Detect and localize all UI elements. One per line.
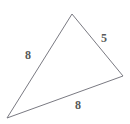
side-label-bottom: 8 bbox=[75, 99, 81, 111]
triangle-outline bbox=[7, 14, 123, 118]
side-label-right: 5 bbox=[101, 32, 107, 44]
triangle-figure: 8 5 8 bbox=[0, 0, 130, 124]
side-label-left: 8 bbox=[25, 49, 31, 61]
triangle-shape bbox=[0, 0, 130, 124]
